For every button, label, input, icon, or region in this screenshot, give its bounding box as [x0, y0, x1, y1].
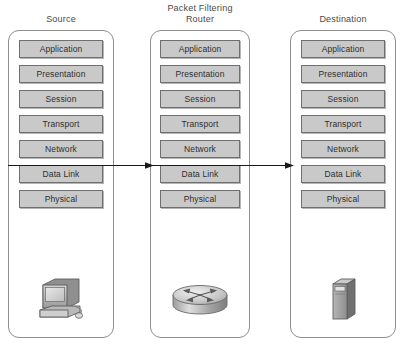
stack-router: Application Presentation Session Transpo…	[150, 30, 250, 338]
device-slot-destination	[291, 271, 395, 329]
layer-box-network: Network	[160, 140, 240, 158]
layer-box-data-link: Data Link	[301, 165, 385, 183]
layer-box-network: Network	[19, 140, 103, 158]
arrow-source-to-router	[8, 161, 154, 170]
stack-destination: Application Presentation Session Transpo…	[290, 30, 396, 338]
server-icon	[321, 275, 365, 325]
arrow-router-to-destination	[148, 161, 294, 170]
layer-box-transport: Transport	[160, 115, 240, 133]
layer-box-presentation: Presentation	[19, 65, 103, 83]
layer-list-destination: Application Presentation Session Transpo…	[291, 40, 395, 215]
layer-box-network: Network	[301, 140, 385, 158]
layer-box-transport: Transport	[301, 115, 385, 133]
layer-box-physical: Physical	[19, 190, 103, 208]
layer-box-physical: Physical	[160, 190, 240, 208]
router-icon	[169, 280, 231, 320]
device-slot-router	[151, 271, 249, 329]
layer-box-transport: Transport	[19, 115, 103, 133]
layer-list-router: Application Presentation Session Transpo…	[151, 40, 249, 215]
layer-list-source: Application Presentation Session Transpo…	[9, 40, 113, 215]
layer-box-presentation: Presentation	[301, 65, 385, 83]
device-slot-source	[9, 271, 113, 329]
layer-box-session: Session	[19, 90, 103, 108]
layer-box-application: Application	[301, 40, 385, 58]
stack-source: Application Presentation Session Transpo…	[8, 30, 114, 338]
layer-box-physical: Physical	[301, 190, 385, 208]
layer-box-session: Session	[301, 90, 385, 108]
desktop-computer-icon	[34, 276, 88, 324]
layer-box-presentation: Presentation	[160, 65, 240, 83]
osi-packet-filtering-diagram: Source Packet Filtering Router Destinati…	[0, 0, 404, 349]
layer-box-application: Application	[19, 40, 103, 58]
layer-box-session: Session	[160, 90, 240, 108]
column-title-source: Source	[8, 14, 114, 25]
layer-box-application: Application	[160, 40, 240, 58]
column-title-destination: Destination	[288, 14, 398, 25]
column-title-router: Packet Filtering Router	[140, 3, 260, 25]
